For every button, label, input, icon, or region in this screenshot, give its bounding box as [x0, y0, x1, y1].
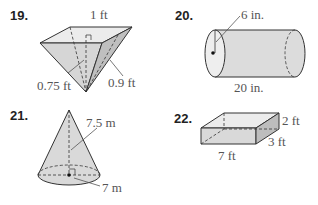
problem-number-22: 22. — [174, 111, 192, 126]
pyramid-height-label: 0.75 ft — [37, 78, 71, 94]
figures-canvas — [0, 0, 318, 205]
problem-number-21: 21. — [10, 108, 28, 123]
pyramid-top-label: 1 ft — [90, 7, 108, 23]
cylinder-length-label: 20 in. — [234, 80, 264, 96]
prism-length-label: 7 ft — [218, 148, 236, 164]
prism-width-label: 3 ft — [268, 134, 286, 150]
pyramid-slant-label: 0.9 ft — [108, 75, 135, 91]
prism-height-label: 2 ft — [282, 113, 300, 129]
cone-slant-label: 7.5 m — [86, 115, 116, 131]
cylinder-radius-label: 6 in. — [241, 7, 264, 23]
problem-number-20: 20. — [175, 8, 193, 23]
problem-number-19: 19. — [10, 8, 28, 23]
cylinder-figure — [205, 16, 305, 77]
cone-radius-label: 7 m — [102, 180, 122, 196]
